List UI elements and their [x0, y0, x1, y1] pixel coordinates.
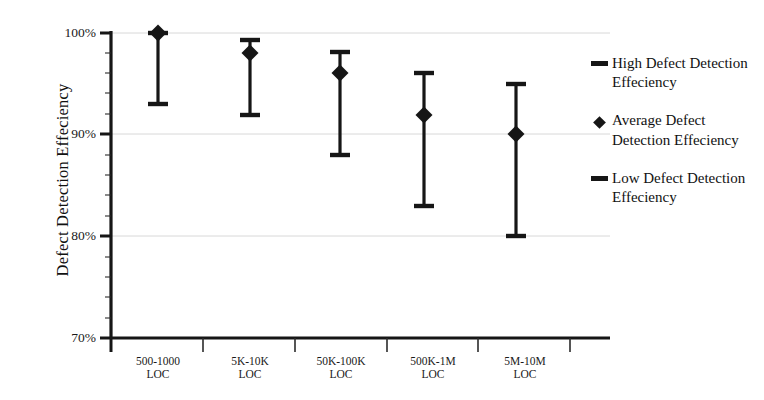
x-tick-label-3-line1: 500K-1M [385, 355, 481, 368]
average-marker-2 [332, 65, 349, 82]
data-series [148, 25, 526, 236]
x-tick-label-2: 50K-100K LOC [293, 355, 389, 381]
legend-label-high: High Defect Detection Effeciency [612, 54, 752, 92]
x-tick-label-0-line2: LOC [110, 368, 206, 381]
legend-dash-icon-high [586, 54, 612, 66]
x-tick-label-1: 5K-10K LOC [202, 355, 298, 381]
x-tick-label-4: 5M-10M LOC [477, 355, 573, 381]
legend-diamond-icon-average [586, 111, 612, 127]
x-tick-label-3: 500K-1M LOC [385, 355, 481, 381]
chart-legend: High Defect Detection Effeciency Average… [586, 54, 761, 226]
plot-area: Defect Detection Effeciency 100% 90% 80%… [0, 0, 764, 400]
x-tick-label-4-line2: LOC [477, 368, 573, 381]
data-point-group-2 [330, 52, 350, 155]
legend-item-average[interactable]: Average Defect Detection Effeciency [586, 111, 761, 149]
data-point-group-4 [506, 84, 526, 236]
legend-item-low[interactable]: Low Defect Detection Effeciency [586, 169, 761, 207]
y-tick-label-70: 70% [44, 331, 96, 345]
y-tick-label-90: 90% [44, 127, 96, 141]
average-marker-0 [150, 25, 167, 42]
x-tick-label-0: 500-1000 LOC [110, 355, 206, 381]
y-tick-label-80: 80% [44, 229, 96, 243]
x-axis [110, 338, 610, 352]
average-marker-4 [508, 126, 525, 143]
y-tick-label-100: 100% [44, 26, 96, 40]
x-tick-label-2-line2: LOC [293, 368, 389, 381]
data-point-group-3 [414, 73, 434, 206]
data-point-group-1 [240, 40, 260, 115]
x-tick-label-4-line1: 5M-10M [477, 355, 573, 368]
y-axis-title: Defect Detection Effeciency [53, 25, 73, 335]
gridlines [110, 33, 610, 236]
x-tick-label-2-line1: 50K-100K [293, 355, 389, 368]
legend-item-high[interactable]: High Defect Detection Effeciency [586, 54, 761, 92]
x-tick-label-3-line2: LOC [385, 368, 481, 381]
legend-dash-icon-low [586, 169, 612, 181]
legend-label-low: Low Defect Detection Effeciency [612, 169, 752, 207]
x-tick-label-0-line1: 500-1000 [110, 355, 206, 368]
data-point-group-0 [148, 25, 168, 104]
x-tick-label-1-line2: LOC [202, 368, 298, 381]
average-marker-3 [416, 107, 433, 124]
x-tick-label-1-line1: 5K-10K [202, 355, 298, 368]
y-axis [100, 31, 111, 339]
legend-label-average: Average Defect Detection Effeciency [612, 111, 752, 149]
average-marker-1 [242, 45, 259, 62]
chart-container: Defect Detection Effeciency 100% 90% 80%… [0, 0, 764, 400]
